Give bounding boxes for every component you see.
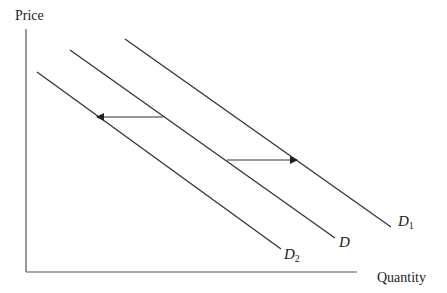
d2-label: D2 xyxy=(283,246,300,264)
demand-curve-d xyxy=(70,50,335,238)
d-label: D xyxy=(338,234,350,250)
x-axis-label: Quantity xyxy=(377,270,426,285)
demand-shift-diagram: Price Quantity D2 D D1 xyxy=(0,0,447,293)
demand-curve-d1 xyxy=(125,39,391,227)
d1-label: D1 xyxy=(397,213,414,231)
y-axis-label: Price xyxy=(15,8,44,23)
